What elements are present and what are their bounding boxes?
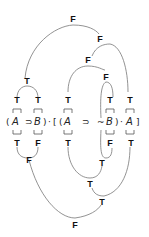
svg-text:A: A bbox=[11, 116, 19, 127]
label-negation-top: F bbox=[103, 72, 109, 82]
label-A1-bottom: T bbox=[14, 138, 20, 148]
label-root-bottom: F bbox=[72, 220, 78, 230]
formula: ( A ⊃ B ) · [ ( A ⊃ ~ B ) · A ] bbox=[6, 116, 140, 127]
arc-bottom-inner-cond bbox=[68, 147, 102, 178]
label-A2-top: T bbox=[65, 95, 71, 105]
svg-text:(: ( bbox=[59, 117, 63, 127]
label-inner-cond-bottom: T bbox=[87, 179, 93, 189]
svg-text:[: [ bbox=[53, 117, 57, 127]
svg-text:(: ( bbox=[6, 117, 10, 127]
label-notB-bottom: F bbox=[107, 138, 113, 148]
svg-text:A: A bbox=[125, 116, 133, 127]
label-right-conj-bottom: T bbox=[99, 197, 105, 207]
label-A3-top: T bbox=[127, 95, 133, 105]
label-A2-bottom: T bbox=[65, 138, 71, 148]
svg-text:B: B bbox=[34, 116, 41, 127]
label-root-top: F bbox=[70, 14, 76, 24]
arc-bottom-root bbox=[29, 160, 101, 218]
label-A3-bottom: T bbox=[128, 138, 134, 148]
svg-text:]: ] bbox=[136, 117, 140, 127]
svg-text:·: · bbox=[120, 117, 123, 127]
label-B2-top: T bbox=[107, 95, 113, 105]
label-inner-cond-top: F bbox=[85, 55, 91, 65]
svg-text:~: ~ bbox=[97, 117, 105, 127]
svg-text:⊃: ⊃ bbox=[25, 117, 33, 127]
svg-text:): ) bbox=[115, 117, 119, 127]
svg-text:): ) bbox=[43, 117, 47, 127]
label-B1-top: T bbox=[35, 95, 41, 105]
arc-top-right-conj bbox=[92, 44, 128, 92]
label-right-conj-top: F bbox=[97, 34, 103, 44]
label-A1-top: T bbox=[14, 95, 20, 105]
svg-text:⊃: ⊃ bbox=[82, 117, 90, 127]
label-left-cond-top: T bbox=[24, 76, 30, 86]
svg-text:B: B bbox=[106, 116, 113, 127]
svg-text:A: A bbox=[63, 116, 71, 127]
arc-top-inner-cond bbox=[68, 66, 105, 92]
truth-tree-diagram: F F F F T T T T T T ( A ⊃ B ) · [ ( A ⊃ … bbox=[0, 0, 149, 237]
label-inner-negB-bottom: T bbox=[99, 158, 105, 168]
arc-top-root bbox=[25, 25, 99, 78]
label-B1-bottom: F bbox=[35, 138, 41, 148]
label-left-cond-bottom: F bbox=[26, 155, 32, 165]
svg-text:·: · bbox=[48, 117, 51, 127]
